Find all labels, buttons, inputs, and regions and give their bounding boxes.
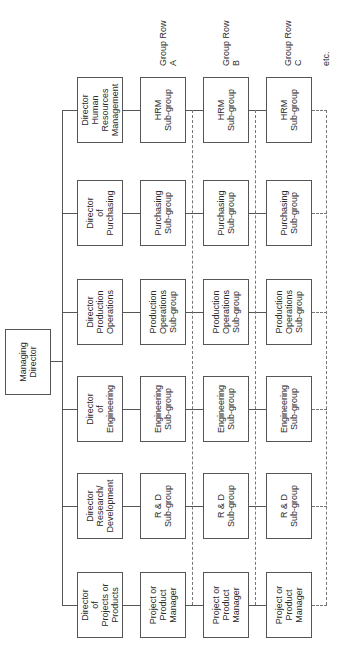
- director-connector: [62, 312, 77, 313]
- director-box-label: Director Research/ Development: [85, 479, 115, 532]
- group-row-label: Group Row C: [283, 20, 303, 66]
- subgroup-box-label: R & D Sub-group: [216, 485, 236, 527]
- subgroup-box-label: HRM Sub-group: [279, 89, 299, 131]
- director-box: Director of Engineering: [77, 376, 123, 442]
- subgroup-box: Production Operations Sub-group: [266, 279, 312, 345]
- director-box: Director of Purchasing: [77, 180, 123, 246]
- continuation-stub: [312, 213, 327, 214]
- subgroup-box: HRM Sub-group: [266, 77, 312, 143]
- subgroup-connector: [123, 605, 140, 606]
- director-connector: [62, 506, 77, 507]
- managing-director-box: Managing Director: [5, 329, 51, 395]
- director-box-label: Director Production Operations: [85, 290, 115, 334]
- subgroup-connector: [123, 213, 140, 214]
- subgroup-box-label: Project or Product Manager: [148, 586, 178, 625]
- subgroup-box: Engineering Sub-group: [140, 376, 186, 442]
- director-box: Director Production Operations: [77, 279, 123, 345]
- group-divider-line: [255, 110, 256, 605]
- subgroup-box: R & D Sub-group: [266, 473, 312, 539]
- continuation-stub: [312, 312, 327, 313]
- subgroup-box: Production Operations Sub-group: [203, 279, 249, 345]
- director-connector: [62, 605, 77, 606]
- subgroup-box: Project or Product Manager: [140, 572, 186, 638]
- subgroup-box: Purchasing Sub-group: [266, 180, 312, 246]
- subgroup-box-label: Purchasing Sub-group: [279, 190, 299, 235]
- subgroup-box-label: R & D Sub-group: [153, 485, 173, 527]
- subgroup-connector: [123, 312, 140, 313]
- director-box-label: Director of Purchasing: [85, 190, 115, 235]
- subgroup-connector: [249, 213, 266, 214]
- group-row-label: Group Row A: [158, 20, 178, 66]
- subgroup-box: R & D Sub-group: [140, 473, 186, 539]
- subgroup-box-label: Project or Product Manager: [274, 586, 304, 625]
- subgroup-box: Project or Product Manager: [266, 572, 312, 638]
- subgroup-box-label: Purchasing Sub-group: [153, 190, 173, 235]
- subgroup-connector: [123, 110, 140, 111]
- subgroup-box: HRM Sub-group: [203, 77, 249, 143]
- spine-line: [62, 110, 63, 606]
- subgroup-box-label: Engineering Sub-group: [153, 385, 173, 433]
- managing-director-box-label: Managing Director: [18, 342, 38, 382]
- continuation-stub: [312, 110, 327, 111]
- director-box-label: Director of Projects or Products: [80, 583, 120, 626]
- subgroup-box-label: Purchasing Sub-group: [216, 190, 236, 235]
- director-box: Director Research/ Development: [77, 473, 123, 539]
- subgroup-box: Production Operations Sub-group: [140, 279, 186, 345]
- director-box-label: Director Human Resources Management: [80, 84, 120, 137]
- md-connector: [51, 361, 62, 362]
- director-box: Director Human Resources Management: [77, 77, 123, 143]
- group-row-label: Group Row B: [221, 20, 241, 66]
- director-box: Director of Projects or Products: [77, 572, 123, 638]
- director-connector: [62, 110, 77, 111]
- continuation-stub: [312, 605, 327, 606]
- subgroup-connector: [123, 409, 140, 410]
- subgroup-box-label: Production Operations Sub-group: [211, 290, 241, 334]
- group-divider-line: [192, 110, 193, 605]
- director-connector: [62, 409, 77, 410]
- continuation-stub: [312, 409, 327, 410]
- subgroup-box-label: HRM Sub-group: [153, 89, 173, 131]
- subgroup-box-label: R & D Sub-group: [279, 485, 299, 527]
- subgroup-box-label: Project or Product Manager: [211, 586, 241, 625]
- subgroup-connector: [249, 506, 266, 507]
- subgroup-connector: [186, 409, 203, 410]
- subgroup-box-label: Production Operations Sub-group: [148, 290, 178, 334]
- continuation-stub: [312, 506, 327, 507]
- subgroup-connector: [186, 110, 203, 111]
- subgroup-connector: [249, 110, 266, 111]
- subgroup-box-label: Production Operations Sub-group: [274, 290, 304, 334]
- subgroup-connector: [186, 506, 203, 507]
- etc-label: etc.: [321, 51, 331, 66]
- subgroup-connector: [249, 605, 266, 606]
- subgroup-box-label: Engineering Sub-group: [279, 385, 299, 433]
- subgroup-box: Engineering Sub-group: [266, 376, 312, 442]
- subgroup-connector: [186, 213, 203, 214]
- subgroup-connector: [249, 409, 266, 410]
- group-divider-line: [326, 110, 327, 605]
- director-connector: [62, 213, 77, 214]
- subgroup-connector: [186, 312, 203, 313]
- subgroup-box: Purchasing Sub-group: [140, 180, 186, 246]
- subgroup-box: Engineering Sub-group: [203, 376, 249, 442]
- subgroup-box-label: Engineering Sub-group: [216, 385, 236, 433]
- director-box-label: Director of Engineering: [85, 385, 115, 433]
- subgroup-box: Purchasing Sub-group: [203, 180, 249, 246]
- subgroup-connector: [249, 312, 266, 313]
- subgroup-box: HRM Sub-group: [140, 77, 186, 143]
- subgroup-box: Project or Product Manager: [203, 572, 249, 638]
- subgroup-connector: [123, 506, 140, 507]
- subgroup-box: R & D Sub-group: [203, 473, 249, 539]
- subgroup-box-label: HRM Sub-group: [216, 89, 236, 131]
- subgroup-connector: [186, 605, 203, 606]
